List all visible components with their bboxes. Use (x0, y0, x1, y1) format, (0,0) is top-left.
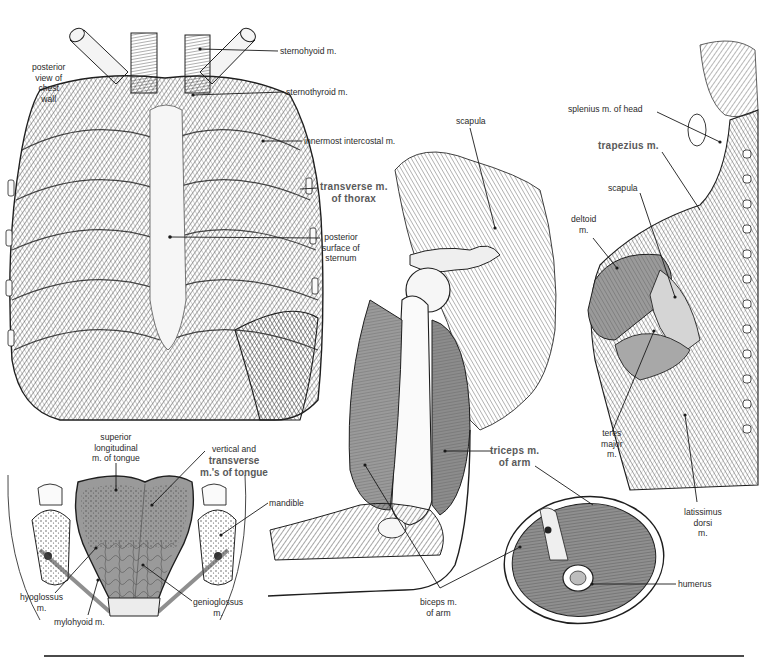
label-line: major (601, 439, 623, 450)
label-vertical-transverse: vertical and transverse m.'s of tongue (200, 444, 268, 479)
label-line: of arm (420, 608, 457, 619)
label-line: m. (601, 449, 623, 460)
label-line: m. (193, 608, 243, 619)
label-line: longitudinal (92, 443, 140, 454)
label-deltoid: deltoid m. (571, 214, 596, 235)
label-line: wall (32, 94, 65, 105)
anatomy-plate: posterior view of chest wall sternohyoid… (0, 0, 761, 666)
label-humerus: humerus (678, 579, 711, 590)
label-line: surface of (322, 243, 360, 254)
label-latissimus-dorsi: latissimus dorsi m. (684, 507, 722, 539)
label-line: deltoid (571, 214, 596, 225)
label-line: latissimus (684, 507, 722, 518)
label-line: m. (571, 225, 596, 236)
label-genioglossus: genioglossus m. (193, 597, 243, 618)
label-line: sternum (322, 253, 360, 264)
label-line: biceps m. (420, 597, 457, 608)
label-line: of thorax (320, 193, 388, 205)
label-line: m. (684, 528, 722, 539)
label-teres-major: teres major m. (601, 428, 623, 460)
label-trapezius: trapezius m. (598, 140, 659, 152)
label-triceps: triceps m. of arm (490, 445, 539, 469)
label-line: hyoglossus (20, 592, 63, 603)
label-posterior-surface-sternum: posterior surface of sternum (322, 232, 360, 264)
label-sternothyroid: sternothyroid m. (286, 87, 348, 98)
label-line: m.'s of tongue (200, 467, 268, 479)
arm-cross-section-illustration (496, 486, 672, 633)
label-line: m. of tongue (92, 453, 140, 464)
label-line: triceps m. (490, 445, 539, 457)
label-line: dorsi (684, 518, 722, 529)
label-line: posterior (322, 232, 360, 243)
label-mylohyoid: mylohyoid m. (54, 617, 105, 628)
label-sternohyoid: sternohyoid m. (280, 46, 336, 57)
label-hyoglossus: hyoglossus m. (20, 592, 63, 613)
label-line: transverse m. (320, 181, 388, 193)
page-bottom-rule (44, 655, 744, 657)
label-scapula-back: scapula (608, 183, 638, 194)
label-line: m. (20, 603, 63, 614)
label-mandible: mandible (269, 498, 304, 509)
illustrations (0, 0, 761, 666)
label-posterior-view-chest-wall: posterior view of chest wall (32, 62, 65, 104)
label-line: superior (92, 432, 140, 443)
label-scapula-arm: scapula (456, 116, 486, 127)
label-superior-longitudinal: superior longitudinal m. of tongue (92, 432, 140, 464)
label-innermost-intercostal: innermost intercostal m. (304, 136, 395, 147)
label-transverse-thorax: transverse m. of thorax (320, 181, 388, 205)
label-splenius: splenius m. of head (568, 104, 643, 115)
label-line: genioglossus (193, 597, 243, 608)
label-line: posterior (32, 62, 65, 73)
label-biceps: biceps m. of arm (420, 597, 457, 618)
label-line: of arm (490, 457, 539, 469)
label-line: vertical and (200, 444, 268, 455)
label-line: teres (601, 428, 623, 439)
label-line: chest (32, 83, 65, 94)
label-line: transverse (200, 455, 268, 467)
label-line: view of (32, 73, 65, 84)
